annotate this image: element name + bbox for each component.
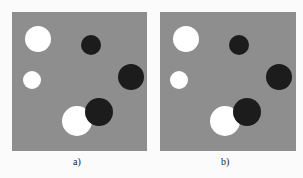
panel-b-label: b) xyxy=(221,156,229,167)
black-disk xyxy=(81,35,101,55)
black-disk xyxy=(229,35,249,55)
white-disk xyxy=(170,71,188,89)
white-disk xyxy=(173,26,199,52)
panel-b xyxy=(160,12,296,151)
panel-a-label: a) xyxy=(73,156,81,167)
black-disk xyxy=(85,98,113,126)
panel-a xyxy=(12,12,147,151)
white-disk xyxy=(25,26,51,52)
white-disk xyxy=(23,71,41,89)
black-disk xyxy=(266,64,292,90)
black-disk xyxy=(118,64,144,90)
black-disk xyxy=(233,98,261,126)
